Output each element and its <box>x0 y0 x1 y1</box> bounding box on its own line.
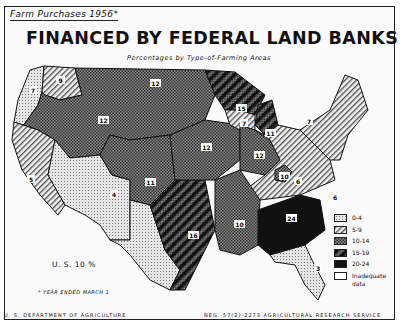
legend-label: 10-14 <box>352 237 369 245</box>
legend-label: 15-19 <box>352 249 369 257</box>
label-region-lake-states: 15 <box>236 104 247 112</box>
dots-swatch-icon <box>334 214 347 222</box>
svg-text:12: 12 <box>202 144 210 151</box>
svg-text:12: 12 <box>99 117 107 124</box>
footer-negative: NEG. 57(2)-2273 AGRICULTURAL RESEARCH SE… <box>204 312 381 318</box>
legend-item-20-24: 20-24 <box>334 260 396 272</box>
svg-text:5: 5 <box>29 176 33 183</box>
label-region-corn-belt: 12 <box>254 151 265 159</box>
legend-item-5-9: 5-9 <box>334 226 396 238</box>
svg-text:7: 7 <box>31 87 35 94</box>
label-region-southeast: 24 <box>286 214 297 222</box>
svg-text:9: 9 <box>58 77 62 84</box>
legend-label: 5-9 <box>352 226 362 234</box>
svg-text:7: 7 <box>307 118 311 125</box>
region-lake-states <box>205 70 265 115</box>
svg-text:11: 11 <box>266 130 274 137</box>
legend: 0-4 5-9 10-14 15-19 20-24 Inadequate dat… <box>334 214 396 290</box>
region-florida <box>270 245 325 300</box>
map-title: FINANCED BY FEDERAL LAND BANKS <box>26 28 398 48</box>
svg-text:11: 11 <box>146 179 154 186</box>
map-subtitle: Farm Purchases 1956* <box>10 9 118 21</box>
legend-label: 0-4 <box>352 214 362 222</box>
svg-text:12: 12 <box>255 152 263 159</box>
footer-agency: U. S. DEPARTMENT OF AGRICULTURE <box>4 312 127 318</box>
label-region-texas-oklahoma: 16 <box>188 231 199 239</box>
svg-text:16: 16 <box>189 232 197 239</box>
legend-label: Inadequate data <box>352 272 396 288</box>
legend-item-inadequate: Inadequate data <box>334 272 396 290</box>
label-region-virginia-carolina: 6 <box>331 193 339 201</box>
label-region-delta: 10 <box>234 220 245 228</box>
label-region-northeast: 7 <box>305 117 313 125</box>
svg-text:7: 7 <box>242 120 246 127</box>
label-region-california: 5 <box>27 175 35 183</box>
label-region-wisconsin-south: 7 <box>240 119 248 127</box>
svg-text:10: 10 <box>280 173 288 180</box>
svg-text:6: 6 <box>296 178 300 185</box>
legend-item-0-4: 0-4 <box>334 214 396 226</box>
region-delta <box>215 170 260 255</box>
label-region-appalachian: 6 <box>294 177 302 185</box>
bold-diagonal-swatch-icon <box>334 249 347 257</box>
label-region-southwest-mountain: 4 <box>110 190 118 198</box>
blank-swatch-icon <box>334 272 347 280</box>
svg-text:6: 6 <box>333 194 337 201</box>
map-caption: Percentages by Type-of-Farming Areas <box>127 54 271 62</box>
svg-text:4: 4 <box>112 191 116 198</box>
label-region-pacific-northwest-west: 7 <box>29 86 37 94</box>
svg-text:3: 3 <box>316 265 320 272</box>
us-total: U. S. 10 % <box>52 260 96 269</box>
diagonal-swatch-icon <box>334 226 347 234</box>
svg-text:10: 10 <box>235 221 243 228</box>
legend-item-15-19: 15-19 <box>334 249 396 261</box>
legend-label: 20-24 <box>352 260 369 268</box>
svg-text:15: 15 <box>237 105 245 112</box>
footnote: * YEAR ENDED MARCH 1 <box>38 289 109 295</box>
region-southeast <box>258 195 325 255</box>
label-region-southern-plains: 11 <box>145 178 156 186</box>
label-region-central-plains: 12 <box>201 143 212 151</box>
label-region-northern-plains-2: 12 <box>150 79 161 87</box>
legend-item-10-14: 10-14 <box>334 237 396 249</box>
label-region-eastern-corn-belt: 11 <box>265 129 276 137</box>
label-region-florida: 3 <box>314 264 322 272</box>
label-region-pacific-northwest-east: 9 <box>56 76 65 84</box>
solid-swatch-icon <box>334 260 347 268</box>
svg-text:12: 12 <box>151 80 159 87</box>
label-region-northern-mountain-plains: 12 <box>98 116 109 124</box>
checker-swatch-icon <box>334 237 347 245</box>
label-region-kentucky-bluegrass: 10 <box>279 172 290 180</box>
svg-text:24: 24 <box>287 215 295 222</box>
